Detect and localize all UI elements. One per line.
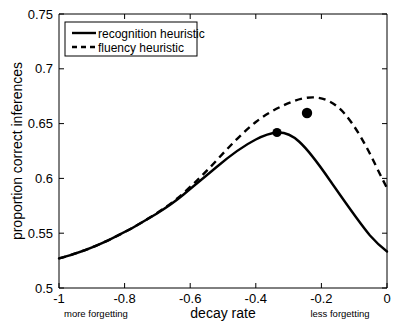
chart-plot: 0.5 0.55 0.6 0.65 0.7 0.75 -1 -0.8 -0.6 … xyxy=(0,0,411,336)
y-tick-label: 0.65 xyxy=(28,116,53,131)
series-fluency-heuristic xyxy=(59,97,387,258)
series-recognition-heuristic xyxy=(59,132,387,258)
y-axis-title: proportion correct inferences xyxy=(9,62,25,240)
legend-label-recognition-heuristic: recognition heuristic xyxy=(98,27,205,41)
y-tick-label: 0.5 xyxy=(35,281,53,296)
legend: recognition heuristic fluency heuristic xyxy=(65,22,205,56)
x-tick-label: -0.2 xyxy=(310,291,332,306)
y-tick-label: 0.75 xyxy=(28,7,53,22)
x-tick-label: -0.6 xyxy=(179,291,201,306)
annotation-more-forgetting: more forgetting xyxy=(64,308,128,319)
peak-marker-recognition-heuristic xyxy=(272,128,281,137)
x-tick-label: -1 xyxy=(53,291,65,306)
x-tick-label: -0.8 xyxy=(113,291,135,306)
y-tick-label: 0.7 xyxy=(35,61,53,76)
x-axis-tick-labels: -1 -0.8 -0.6 -0.4 -0.2 0 xyxy=(53,291,390,306)
y-axis-tick-labels: 0.5 0.55 0.6 0.65 0.7 0.75 xyxy=(28,7,53,296)
y-tick-label: 0.55 xyxy=(28,226,53,241)
x-axis-title: decay rate xyxy=(190,305,256,321)
annotation-less-forgetting: less forgetting xyxy=(310,308,369,319)
y-tick-label: 0.6 xyxy=(35,171,53,186)
peak-marker-fluency-heuristic xyxy=(302,108,312,118)
caption-sliver xyxy=(0,326,411,336)
figure-container: 0.5 0.55 0.6 0.65 0.7 0.75 -1 -0.8 -0.6 … xyxy=(0,0,411,336)
legend-label-fluency-heuristic: fluency heuristic xyxy=(98,41,184,55)
x-tick-label: 0 xyxy=(383,291,390,306)
x-tick-label: -0.4 xyxy=(245,291,267,306)
